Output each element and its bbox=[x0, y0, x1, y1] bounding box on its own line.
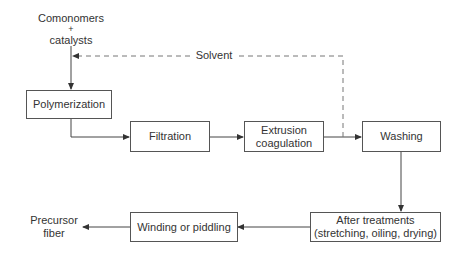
solvent-label: Solvent bbox=[192, 49, 236, 62]
output-label: Precursor fiber bbox=[28, 214, 80, 240]
process-flow-diagram: Comonomers + catalysts Solvent Polymeriz… bbox=[0, 0, 464, 255]
step-extrusion-label-1: Extrusion bbox=[261, 124, 307, 137]
step-extrusion-coagulation: Extrusion coagulation bbox=[244, 121, 324, 152]
step-winding-piddling: Winding or piddling bbox=[130, 212, 238, 242]
step-filtration-label: Filtration bbox=[149, 130, 191, 143]
output-line-2: fiber bbox=[28, 227, 80, 240]
output-line-1: Precursor bbox=[28, 214, 80, 227]
step-winding-label: Winding or piddling bbox=[137, 221, 231, 234]
step-after-treatments-label-2: (stretching, oiling, drying) bbox=[314, 227, 437, 240]
step-filtration: Filtration bbox=[130, 121, 210, 152]
arrow-polymerization-to-filtration bbox=[71, 118, 129, 137]
step-after-treatments-label-1: After treatments bbox=[336, 214, 414, 227]
step-polymerization-label: Polymerization bbox=[33, 98, 105, 111]
step-washing: Washing bbox=[362, 121, 441, 152]
step-polymerization: Polymerization bbox=[26, 90, 112, 119]
input-line-3: catalysts bbox=[26, 34, 116, 47]
step-extrusion-label-2: coagulation bbox=[256, 137, 312, 150]
step-after-treatments: After treatments (stretching, oiling, dr… bbox=[310, 212, 441, 242]
step-washing-label: Washing bbox=[380, 130, 422, 143]
input-line-2: + bbox=[26, 25, 116, 34]
input-label: Comonomers + catalysts bbox=[26, 12, 116, 47]
